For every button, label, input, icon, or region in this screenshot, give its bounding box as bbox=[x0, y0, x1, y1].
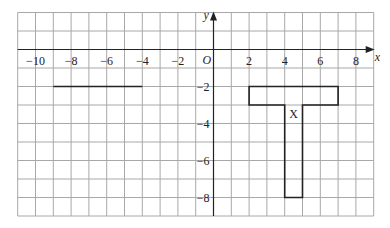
x-tick-label: −4 bbox=[136, 54, 149, 68]
coordinate-grid: xyO −10−8−6−4−22468−2−4−6−8 X bbox=[0, 0, 390, 228]
x-tick-label: −10 bbox=[26, 54, 45, 68]
y-tick-label: −8 bbox=[197, 191, 210, 205]
shape-label: X bbox=[289, 107, 298, 121]
x-tick-label: −2 bbox=[172, 54, 185, 68]
x-tick-label: −8 bbox=[65, 54, 78, 68]
y-axis-label: y bbox=[203, 8, 210, 22]
axes: xyO bbox=[18, 8, 381, 217]
grid-lines bbox=[18, 13, 374, 217]
x-tick-label: 2 bbox=[246, 54, 252, 68]
y-tick-label: −4 bbox=[197, 117, 210, 131]
y-tick-label: −2 bbox=[197, 80, 210, 94]
x-tick-label: −6 bbox=[100, 54, 113, 68]
x-tick-label: 6 bbox=[317, 54, 323, 68]
x-axis-label: x bbox=[374, 50, 381, 64]
x-tick-label: 4 bbox=[282, 54, 288, 68]
x-tick-label: 8 bbox=[353, 54, 359, 68]
y-tick-label: −6 bbox=[197, 154, 210, 168]
tick-labels: −10−8−6−4−22468−2−4−6−8 bbox=[26, 54, 359, 205]
origin-label: O bbox=[203, 53, 212, 67]
